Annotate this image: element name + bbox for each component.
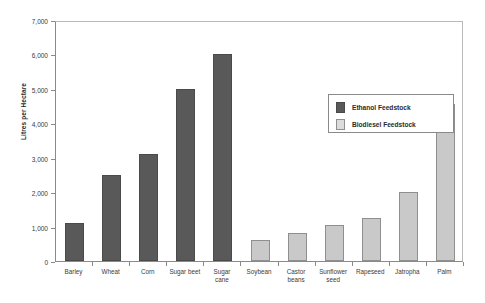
y-axis-title: Litres per Hectare [20,67,27,157]
x-axis-tick-mark [426,262,427,266]
bar [288,233,307,261]
legend-item: Ethanol Feedstock [336,102,411,113]
x-axis-tick-label: Sunflowerseed [315,268,352,284]
bar [102,175,121,261]
x-axis-tick-label: Rapeseed [352,268,389,276]
bar-chart: Litres per Hectare 01,0002,0003,0004,000… [0,0,485,303]
bar [176,89,195,261]
x-axis-tick-mark [463,262,464,266]
y-axis-tick-label: 5,000 [6,86,48,93]
legend-swatch-ethanol [336,102,345,113]
legend-item: Biodiesel Feedstock [336,119,416,130]
y-axis-tick-label: 0 [6,259,48,266]
chart-legend: Ethanol FeedstockBiodiesel Feedstock [328,94,454,133]
bar [251,240,270,261]
x-axis-tick-mark [315,262,316,266]
legend-swatch-biodiesel [336,119,345,130]
x-axis-tick-label: Jatropha [389,268,426,276]
legend-label: Ethanol Feedstock [352,104,411,111]
x-axis-tick-label: Castorbeans [278,268,315,284]
y-axis-tick-label: 7,000 [6,18,48,25]
x-axis-tick-label: Barley [55,268,92,276]
x-axis-tick-label: Soybean [240,268,277,276]
y-axis-tick-mark [51,262,55,263]
bar [139,154,158,261]
x-axis-tick-mark [166,262,167,266]
y-axis-tick-label: 4,000 [6,121,48,128]
x-axis-tick-mark [278,262,279,266]
y-axis-tick-label: 3,000 [6,155,48,162]
x-axis-tick-mark [352,262,353,266]
y-axis-tick-label: 6,000 [6,52,48,59]
bar [399,192,418,261]
x-axis-tick-mark [389,262,390,266]
x-axis-tick-mark [240,262,241,266]
x-axis-tick-label: Sugarcane [203,268,240,284]
y-axis-tick-label: 2,000 [6,190,48,197]
x-axis-tick-label: Corn [129,268,166,276]
x-axis-tick-mark [129,262,130,266]
x-axis-tick-label: Wheat [92,268,129,276]
bar [213,54,232,261]
plot-area: Ethanol FeedstockBiodiesel Feedstock [55,21,463,262]
bar [362,218,381,261]
x-axis-tick-label: Sugar beet [166,268,203,276]
x-axis-tick-mark [203,262,204,266]
y-axis-tick-label: 1,000 [6,224,48,231]
bar [65,223,84,261]
bar [325,225,344,261]
legend-label: Biodiesel Feedstock [352,121,416,128]
x-axis-tick-mark [92,262,93,266]
x-axis-tick-label: Palm [426,268,463,276]
